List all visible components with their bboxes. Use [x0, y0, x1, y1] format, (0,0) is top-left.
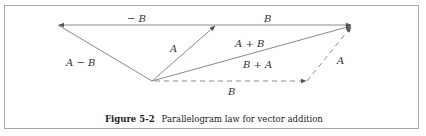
vector-a-right [307, 27, 351, 81]
label-neg-b: − B [127, 13, 146, 24]
label-a-left: A [169, 43, 177, 54]
label-b-bottom: B [227, 86, 235, 97]
figure-caption: Figure 5-2 Parallelogram law for vector … [105, 108, 323, 125]
label-a-right: A [336, 55, 344, 66]
label-b-plus-a: B + A [242, 59, 272, 70]
label-b-top: B [263, 13, 271, 24]
label-a-plus-b: A + B [234, 38, 264, 49]
vector-a-minus-b [58, 25, 152, 81]
label-a-minus-b: A − B [65, 57, 95, 68]
parallelogram-diagram: − B B A A − B A + B B + A A B Figure 5-2… [0, 0, 426, 136]
caption-label: Figure 5-2 [105, 114, 155, 124]
vector-a-plus-b [152, 26, 351, 81]
caption-text: Parallelogram law for vector addition [162, 114, 324, 124]
